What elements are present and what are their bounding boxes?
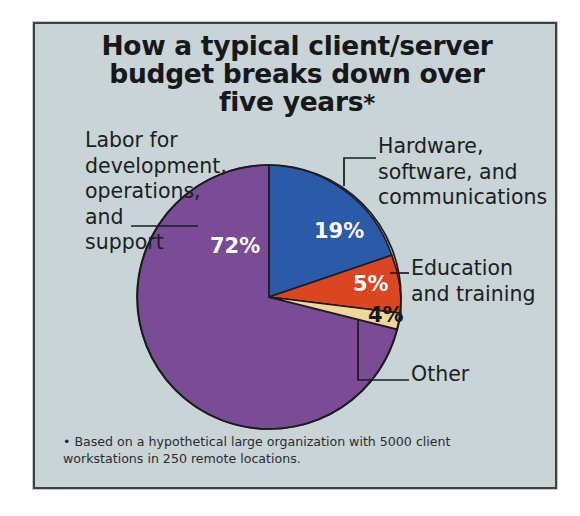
slice-value-other: 4% — [368, 303, 404, 327]
callout-label-hardware: Hardware, software, and communications — [378, 134, 563, 211]
callout-label-education: Education and training — [411, 256, 561, 307]
figure-canvas: How a typical client/server budget break… — [0, 0, 580, 516]
footnote-text: • Based on a hypothetical large organiza… — [63, 433, 463, 467]
leader-line-hardware — [344, 158, 376, 186]
slice-value-hardware: 19% — [314, 219, 364, 243]
slice-value-education: 5% — [353, 272, 389, 296]
slice-value-labor: 72% — [210, 234, 260, 258]
callout-label-other: Other — [411, 362, 531, 388]
chart-panel: How a typical client/server budget break… — [33, 22, 557, 489]
